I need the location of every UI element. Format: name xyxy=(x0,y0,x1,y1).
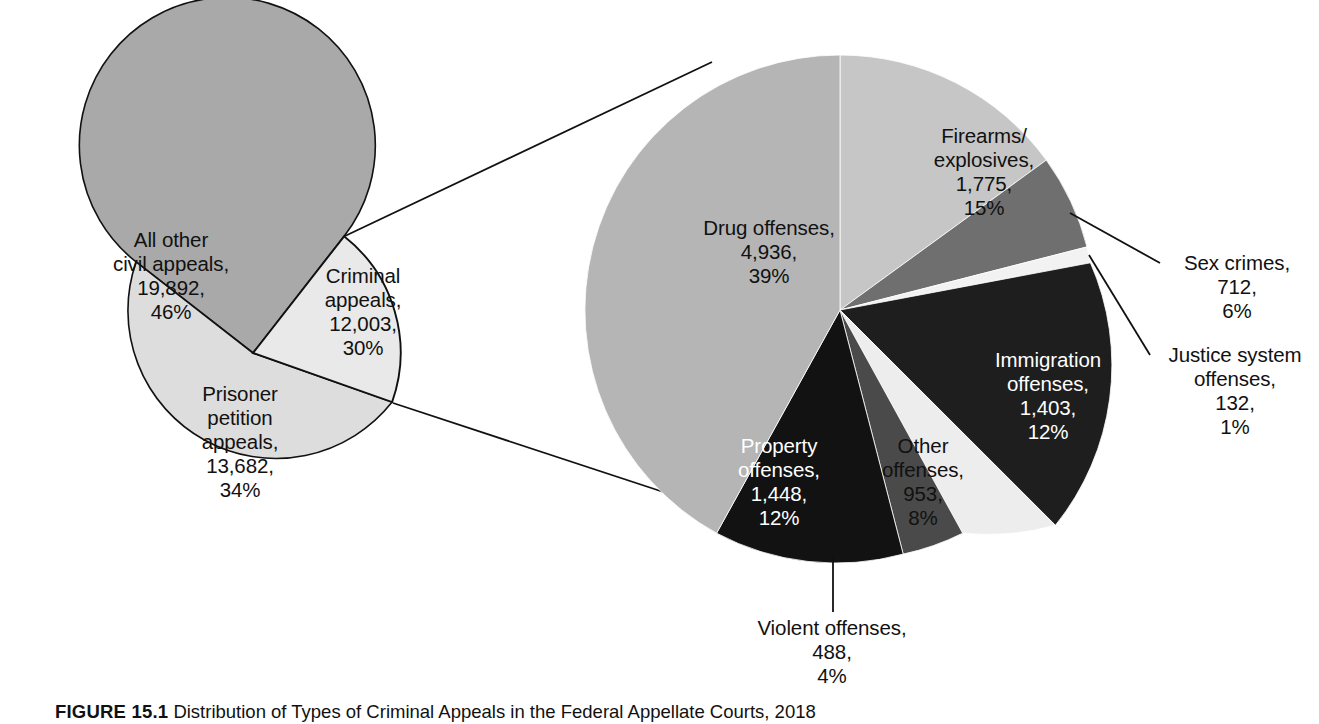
figure-caption: FIGURE 15.1 Distribution of Types of Cri… xyxy=(55,700,1295,724)
label-firearms-explosives: Firearms/ explosives, 1,775, 15% xyxy=(900,124,1068,220)
figure-caption-text: Distribution of Types of Criminal Appeal… xyxy=(173,701,815,722)
label-prisoner-petition-appeals: Prisoner petition appeals, 13,682, 34% xyxy=(152,382,328,502)
label-drug-offenses: Drug offenses, 4,936, 39% xyxy=(654,216,884,288)
label-immigration-offenses: Immigration offenses, 1,403, 12% xyxy=(952,348,1144,444)
label-violent-offenses: Violent offenses, 488, 4% xyxy=(718,616,946,688)
label-sex-crimes: Sex crimes, 712, 6% xyxy=(1164,251,1310,323)
label-justice-system-offenses: Justice system offenses, 132, 1% xyxy=(1152,343,1318,439)
label-criminal-appeals: Criminal appeals, 12,003, 30% xyxy=(288,264,438,360)
label-property-offenses: Property offenses, 1,448, 12% xyxy=(700,434,858,530)
label-all-other-civil-appeals: All other civil appeals, 19,892, 46% xyxy=(62,228,280,324)
figure-caption-number: FIGURE 15.1 xyxy=(55,701,168,722)
label-other-offenses: Other offenses, 953, 8% xyxy=(860,434,986,530)
